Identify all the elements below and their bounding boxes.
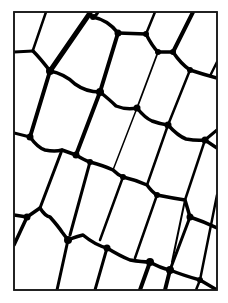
wall-junction bbox=[87, 159, 93, 165]
wall-junction bbox=[120, 174, 126, 180]
wall-junction bbox=[155, 49, 161, 55]
wall-junction bbox=[165, 122, 172, 129]
wall-junction bbox=[104, 245, 111, 252]
wall-junction bbox=[170, 49, 176, 55]
wall-junction bbox=[90, 14, 96, 20]
wall-junction bbox=[187, 214, 194, 221]
wall-junction bbox=[197, 277, 203, 283]
wall-junction bbox=[115, 30, 122, 37]
cell-wall bbox=[14, 51, 33, 52]
wall-junction bbox=[154, 192, 160, 198]
wall-junction bbox=[64, 236, 72, 244]
wall-junction bbox=[134, 105, 141, 112]
wall-junction bbox=[24, 214, 31, 221]
wall-junction bbox=[187, 67, 193, 73]
wall-junction bbox=[27, 134, 34, 141]
wall-junction bbox=[146, 258, 154, 266]
cell-illustration bbox=[0, 0, 228, 303]
wall-junction bbox=[166, 266, 174, 274]
cell-wall bbox=[118, 33, 146, 34]
wall-junction bbox=[73, 152, 80, 159]
wall-junction bbox=[96, 88, 104, 96]
wall-junction bbox=[202, 137, 209, 144]
wall-junction bbox=[46, 67, 54, 75]
wall-junction bbox=[143, 31, 149, 37]
